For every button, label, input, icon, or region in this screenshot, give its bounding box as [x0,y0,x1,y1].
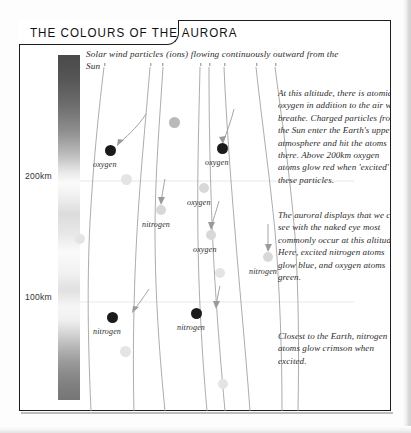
atom-label-oxygen-mid-lower: oxygen [193,245,217,254]
atom-oxygen-upper-right [217,143,228,154]
diagram-stage: Solar wind particles (ions) flowing cont… [19,46,391,411]
atom-label-oxygen-upper-left: oxygen [93,160,117,169]
atom-label-oxygen-upper-right: oxygen [205,158,229,167]
solar-wind-streams [88,67,298,411]
particle-dot [121,174,132,185]
excitation-arrows [117,109,268,311]
particle-dot [75,234,85,244]
note-lower-altitude: Closest to the Earth, nitrogen atoms glo… [278,330,391,367]
particle-dot [215,268,225,278]
altitude-label-100km: 100km [25,292,52,302]
page-edge-shading-right [402,0,411,433]
atom-label-nitrogen-low-right: nitrogen [177,323,205,332]
atom-oxygen-mid-lower [206,230,216,240]
particle-dot [169,117,180,128]
figure-title: THE COLOURS OF THE AURORA [30,26,238,40]
atom-nitrogen-mid-right [263,252,273,262]
figure-page: THE COLOURS OF THE AURORA [0,0,411,433]
particle-dot [120,346,131,357]
note-upper-altitude: At this altitude, there is atomic oxygen… [278,87,391,186]
panel-drop-shadow [21,412,393,414]
atom-oxygen-mid-upper [199,183,209,193]
particle-dot [218,379,228,389]
atom-label-nitrogen-mid-right: nitrogen [249,267,277,276]
top-caption: Solar wind particles (ions) flowing cont… [86,48,348,72]
page-edge-shading-bottom [0,426,411,433]
note-middle-altitude: The auroral displays that we can see wit… [278,209,391,283]
arrow-heads [117,136,272,313]
atom-label-oxygen-mid-upper: oxygen [187,198,211,207]
altitude-label-200km: 200km [25,171,52,181]
atom-oxygen-upper-left [105,145,116,156]
atom-nitrogen-low-right [191,308,202,319]
atom-nitrogen-low-left [107,312,118,323]
atom-label-nitrogen-mid-left: nitrogen [142,220,170,229]
atom-label-nitrogen-low-left: nitrogen [93,327,121,336]
atom-nitrogen-mid-left [156,205,166,215]
